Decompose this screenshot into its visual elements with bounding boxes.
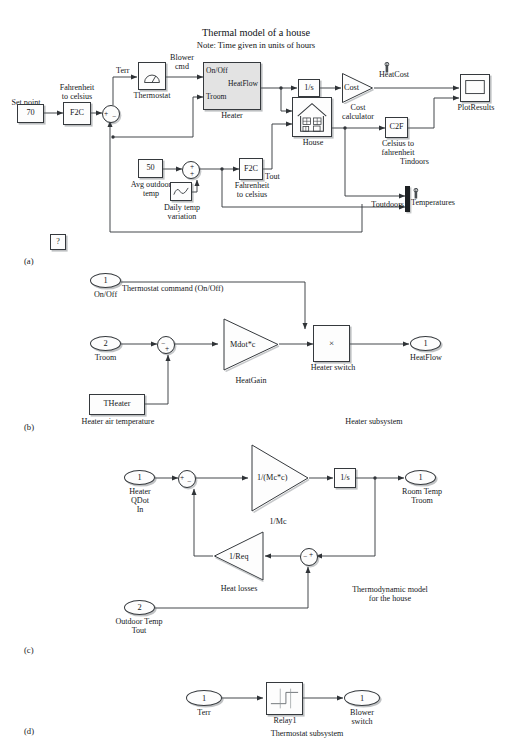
outport-block-blower-switch[interactable]: 1 [344, 690, 380, 706]
outport-heatflow-label: HeatFlow [409, 353, 443, 362]
house-icon [293, 98, 331, 136]
integrator-block-cost[interactable]: 1/s [298, 79, 320, 97]
daily-temp-variation-label: Daily temp variation [152, 203, 212, 221]
heater-air-temperature-label: Heater air temperature [74, 417, 162, 426]
heat-losses-label: Heat losses [206, 584, 272, 593]
c2f-block[interactable]: C2F [385, 117, 408, 138]
f2c-block-setpoint[interactable]: F2C [63, 102, 91, 125]
thermodynamic-model-caption: Thermodynamic model for the house [340, 585, 440, 603]
outport-block-heatflow[interactable]: 1 [410, 336, 441, 351]
theater-value: THeater [104, 400, 131, 409]
figure-note: Note: Time given in units of hours [146, 40, 366, 50]
tindoors-signal-label: Tindoors [400, 157, 446, 166]
outport-room-label: Room Temp Troom [394, 487, 450, 505]
c2f-value: C2F [389, 123, 403, 132]
sum-delta-sign-minus: − [303, 553, 307, 560]
inport-outdoor-value: 2 [137, 603, 141, 612]
integrator-value: 1/s [304, 84, 314, 93]
figure-canvas: Thermal model of a house Note: Time give… [0, 0, 513, 741]
figure-title: Thermal model of a house [146, 27, 366, 38]
scope-icon [461, 75, 489, 101]
heater-outport-heatflow-label: HeatFlow [228, 80, 258, 88]
plotresults-label: PlotResults [452, 103, 500, 112]
sine-wave-block-daily-temp[interactable] [170, 182, 192, 201]
constant-block-theater[interactable]: THeater [89, 394, 145, 415]
thermostat-subsystem-caption: Thermostat subsystem [249, 729, 365, 738]
inport-block-outdoor-temp[interactable]: 2 [124, 600, 155, 615]
outport-room-value: 1 [418, 473, 422, 482]
product-block-heater-switch[interactable]: × [313, 325, 350, 362]
f2c-block-outdoor[interactable]: F2C [239, 158, 263, 180]
integrator-room-value: 1/s [340, 474, 350, 483]
inport-troom-value: 2 [103, 339, 107, 348]
sine-wave-icon [171, 183, 191, 200]
scope-block-plotresults[interactable] [460, 74, 490, 102]
f2c-top-label: Fahrenheit to celsius [43, 83, 111, 101]
sum2-sign-plus-bottom: + [190, 170, 194, 177]
inport-terr-label: Terr [188, 708, 220, 717]
integrator-block-room-temp[interactable]: 1/s [334, 468, 356, 488]
gain-1-over-mc-value: 1/(Mc*c) [257, 473, 287, 482]
product-value: × [329, 339, 334, 348]
inport-block-heater-qdot[interactable]: 1 [124, 470, 155, 485]
inport-block-onoff[interactable]: 1 [90, 273, 121, 288]
cost-calculator-label: Cost calculator [331, 103, 385, 121]
sum-sign-plus: + [104, 110, 108, 117]
heater-inport-onoff-label: On/Off [206, 67, 228, 75]
inport-qdot-value: 1 [137, 473, 141, 482]
inport-onoff-value: 1 [103, 276, 107, 285]
gain-1-over-mc-label: 1/Mc [255, 517, 301, 526]
temperatures-label: Temperatures [411, 198, 473, 207]
constant-value-avg-outdoor: 50 [146, 164, 154, 173]
heatcost-signal-label: HeatCost [379, 70, 429, 79]
mux-block-temperatures[interactable] [405, 186, 410, 212]
panel-label-a: (a) [24, 256, 34, 266]
outport-block-room-temp[interactable]: 1 [405, 470, 436, 485]
heater-block-label: Heater [209, 111, 255, 120]
gain-block-heatgain[interactable]: Mdot*c [222, 317, 280, 372]
heater-switch-label: Heater switch [305, 363, 361, 372]
f2c-top-value: F2C [70, 109, 84, 118]
constant-value-setpoint: 70 [26, 109, 34, 118]
sum-heatgain-sign-plus: + [165, 345, 169, 352]
inport-outdoor-label: Outdoor Temp Tout [108, 617, 170, 635]
constant-block-avg-outdoor[interactable]: 50 [138, 159, 163, 178]
blower-cmd-label: Blower cmd [162, 53, 202, 71]
sum-sign-minus: − [112, 113, 116, 120]
constant-block-setpoint[interactable]: 70 [17, 104, 44, 123]
c2f-label: Celsius to fahrenheit [370, 139, 426, 157]
sum-delta-sign-plus: + [309, 551, 313, 558]
outport-heatflow-value: 1 [423, 339, 427, 348]
inport-block-troom[interactable]: 2 [90, 336, 121, 351]
inport-onoff-label: On/Off [90, 290, 121, 299]
f2c-bottom-label: Fahrenheit to celsius [222, 181, 282, 199]
inport-terr-value: 1 [202, 694, 206, 703]
relay-block[interactable] [266, 682, 303, 715]
gain-block-heat-losses[interactable]: 1/Req [213, 530, 265, 582]
house-subsystem-block[interactable] [292, 97, 332, 137]
inport-block-terr[interactable]: 1 [186, 690, 222, 706]
heater-inport-troom-label: Troom [206, 93, 226, 101]
outport-blower-value: 1 [360, 694, 364, 703]
signal-annotation-marker-temperatures [412, 185, 420, 196]
tout-signal-label: Tout [265, 172, 291, 181]
gain-block-1-over-mc[interactable]: 1/(Mc*c) [250, 443, 310, 513]
sum-net-sign-plus: + [180, 474, 184, 481]
help-block-value: ? [56, 238, 60, 246]
heater-subsystem-caption: Heater subsystem [336, 417, 412, 426]
toutdoors-signal-label: Toutdoors [348, 200, 404, 209]
gain-heat-losses-value: 1/Req [229, 552, 249, 561]
gain-block-cost[interactable]: Cost [341, 72, 374, 104]
signal-annotation-marker-heatcost [383, 59, 391, 70]
help-block[interactable]: ? [50, 234, 66, 250]
relay-hysteresis-icon [267, 683, 302, 714]
inport-troom-label: Troom [90, 353, 121, 362]
outport-blower-label: Blower switch [342, 708, 382, 726]
panel-label-d: (d) [24, 726, 34, 736]
panel-label-b: (b) [24, 422, 34, 432]
heater-subsystem-block[interactable]: On/Off Troom HeatFlow [203, 62, 261, 110]
panel-label-c: (c) [24, 645, 34, 655]
f2c-bottom-value: F2C [244, 165, 258, 174]
gain-cost-value: Cost [344, 83, 359, 92]
inport-qdot-label: Heater QDot In [120, 487, 160, 514]
